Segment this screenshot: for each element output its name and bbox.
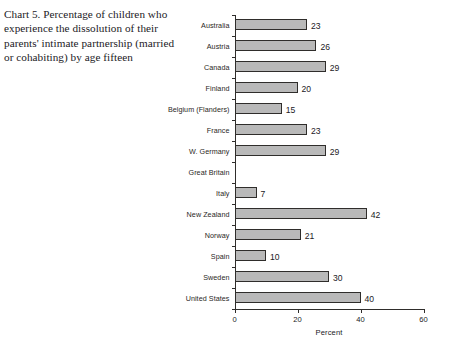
category-label: Australia xyxy=(201,21,229,30)
bar-value-label: 29 xyxy=(330,63,340,73)
y-axis-tick xyxy=(232,78,235,79)
bar-value-label: 7 xyxy=(261,189,266,199)
bar xyxy=(235,82,298,93)
bar-value-label: 40 xyxy=(365,294,375,304)
bar xyxy=(235,208,367,219)
category-label: Spain xyxy=(211,252,230,261)
x-axis-tick-label: 60 xyxy=(409,315,439,324)
x-axis-tick-label: 40 xyxy=(346,315,376,324)
x-axis-tick-label: 20 xyxy=(283,315,313,324)
x-axis-tick xyxy=(298,310,299,313)
bar xyxy=(235,40,317,51)
x-axis-tick xyxy=(235,310,236,313)
category-label: Great Britain xyxy=(189,168,230,177)
bar xyxy=(235,19,307,30)
y-axis-tick xyxy=(232,57,235,58)
x-axis-tick-label: 0 xyxy=(220,315,250,324)
bar-value-label: 30 xyxy=(333,273,343,283)
y-axis-tick xyxy=(232,99,235,100)
bar xyxy=(235,271,330,282)
y-axis-tick xyxy=(232,120,235,121)
y-axis-tick xyxy=(232,183,235,184)
bar xyxy=(235,124,307,135)
y-axis-tick xyxy=(232,162,235,163)
y-axis-tick xyxy=(232,288,235,289)
category-label: United States xyxy=(186,294,230,303)
bar xyxy=(235,292,361,303)
category-label: New Zealand xyxy=(187,210,230,219)
bar-value-label: 23 xyxy=(311,126,321,136)
bar-value-label: 10 xyxy=(270,252,280,262)
y-axis-tick xyxy=(232,36,235,37)
category-label: Italy xyxy=(216,189,229,198)
y-axis-tick xyxy=(232,141,235,142)
bar xyxy=(235,145,326,156)
bar-value-label: 42 xyxy=(371,210,381,220)
bar-value-label: 21 xyxy=(305,231,315,241)
category-label: Sweden xyxy=(203,273,229,282)
bar xyxy=(235,250,267,261)
y-axis-tick xyxy=(232,204,235,205)
bar xyxy=(235,187,257,198)
y-axis-tick xyxy=(232,15,235,16)
y-axis-tick xyxy=(232,267,235,268)
category-label: Norway xyxy=(205,231,230,240)
y-axis-tick xyxy=(232,246,235,247)
bar-value-label: 29 xyxy=(330,147,340,157)
bar xyxy=(235,229,301,240)
category-label: Canada xyxy=(204,63,229,72)
x-axis-tick xyxy=(424,310,425,313)
bar-value-label: 15 xyxy=(286,105,296,115)
bar-value-label: 26 xyxy=(320,42,330,52)
chart-page: Chart 5. Percentage of children who expe… xyxy=(0,0,454,352)
category-label: Austria xyxy=(207,42,230,51)
x-axis-title: Percent xyxy=(289,328,369,337)
bar xyxy=(235,103,282,114)
x-axis-tick xyxy=(361,310,362,313)
y-axis-line xyxy=(235,15,236,309)
category-label: Finland xyxy=(206,84,230,93)
bar xyxy=(235,61,326,72)
x-axis-line xyxy=(235,309,425,310)
bar-value-label: 23 xyxy=(311,21,321,31)
bar-value-label: 20 xyxy=(302,84,312,94)
bar-chart: Percent Australia23Austria26Canada29Finl… xyxy=(0,0,454,352)
y-axis-tick xyxy=(232,225,235,226)
category-label: W. Germany xyxy=(189,147,229,156)
category-label: Belgium (Flanders) xyxy=(168,105,230,114)
category-label: France xyxy=(207,126,230,135)
